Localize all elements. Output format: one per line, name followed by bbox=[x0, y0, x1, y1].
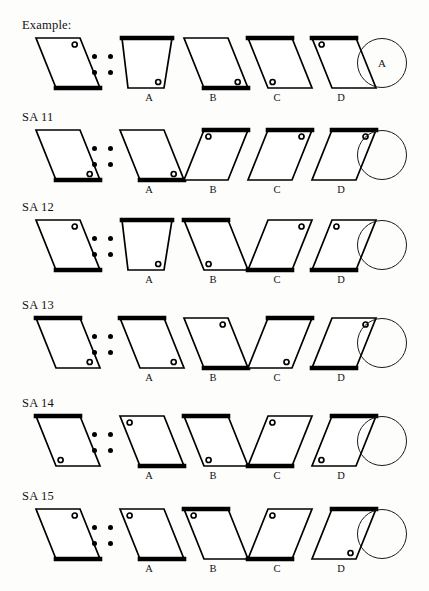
option-shape-sa14-b[interactable] bbox=[176, 412, 250, 474]
separator-dot-3 bbox=[92, 448, 97, 453]
marker-dot-icon bbox=[270, 420, 275, 425]
prompt-shape-sa15 bbox=[28, 505, 102, 567]
option-shape-svg-b bbox=[176, 412, 250, 474]
option-letter-sa15-d: D bbox=[304, 563, 378, 574]
option-shape-svg-b bbox=[176, 216, 250, 278]
marker-dot-icon bbox=[319, 458, 324, 463]
parallelogram-outline bbox=[248, 318, 312, 368]
option-shape-sa15-c[interactable] bbox=[240, 505, 314, 567]
option-shape-svg-c bbox=[240, 126, 314, 188]
option-letter-sa15-b: B bbox=[176, 563, 250, 574]
separator-dot-1 bbox=[92, 525, 97, 530]
row-label: SA 12 bbox=[22, 200, 54, 215]
option-shape-sa12-b[interactable] bbox=[176, 216, 250, 278]
option-shape-svg-b bbox=[176, 126, 250, 188]
option-shape-sa11-a[interactable] bbox=[112, 126, 186, 188]
option-shape-sa13-b[interactable] bbox=[176, 314, 250, 376]
question-row-sa14: SA 14 A B C D bbox=[0, 396, 429, 482]
option-shape-sa12-c[interactable] bbox=[240, 216, 314, 278]
prompt-shape-svg bbox=[28, 34, 102, 96]
parallelogram-outline bbox=[122, 220, 172, 270]
option-letter-sa12-a: A bbox=[112, 274, 186, 285]
answer-circle-sa13[interactable] bbox=[357, 318, 407, 368]
parallelogram-outline bbox=[122, 38, 172, 88]
option-letter-sa15-a: A bbox=[112, 563, 186, 574]
prompt-shape-svg bbox=[28, 126, 102, 188]
prompt-shape-svg bbox=[28, 216, 102, 278]
option-shape-sa11-b[interactable] bbox=[176, 126, 250, 188]
option-letter-sa12-b: B bbox=[176, 274, 250, 285]
answer-circle-sa12[interactable] bbox=[357, 220, 407, 270]
prompt-shape-sa14 bbox=[28, 412, 102, 474]
marker-dot-icon bbox=[191, 513, 196, 518]
prompt-shape-svg bbox=[28, 412, 102, 474]
option-shape-sa14-a[interactable] bbox=[112, 412, 186, 474]
option-shape-sa14-c[interactable] bbox=[240, 412, 314, 474]
option-shape-svg-a bbox=[112, 34, 186, 96]
option-letter-example-b: B bbox=[176, 92, 250, 103]
question-row-sa15: SA 15 A B C D bbox=[0, 489, 429, 575]
marker-dot-icon bbox=[127, 420, 132, 425]
option-shape-svg-c bbox=[240, 412, 314, 474]
parallelogram-outline bbox=[36, 416, 100, 466]
option-shape-svg-c bbox=[240, 505, 314, 567]
marker-dot-icon bbox=[156, 262, 161, 267]
option-letter-sa12-d: D bbox=[304, 274, 378, 285]
marker-dot-icon bbox=[72, 42, 77, 47]
option-shape-sa11-c[interactable] bbox=[240, 126, 314, 188]
answer-circle-sa11[interactable] bbox=[357, 130, 407, 180]
option-letter-sa13-b: B bbox=[176, 372, 250, 383]
prompt-shape-sa12 bbox=[28, 216, 102, 278]
parallelogram-outline bbox=[248, 38, 312, 88]
option-shape-svg-c bbox=[240, 216, 314, 278]
option-letter-sa13-d: D bbox=[304, 372, 378, 383]
option-shape-svg-a bbox=[112, 505, 186, 567]
marker-dot-icon bbox=[284, 360, 289, 365]
option-shape-example-c[interactable] bbox=[240, 34, 314, 96]
option-letter-sa14-c: C bbox=[240, 470, 314, 481]
row-label: Example: bbox=[22, 18, 72, 33]
parallelogram-outline bbox=[184, 416, 248, 466]
option-letter-example-a: A bbox=[112, 92, 186, 103]
marker-dot-icon bbox=[206, 134, 211, 139]
option-letter-sa11-a: A bbox=[112, 184, 186, 195]
answer-circle-sa15[interactable] bbox=[357, 509, 407, 559]
parallelogram-outline bbox=[248, 509, 312, 559]
question-row-sa13: SA 13 A B C D bbox=[0, 298, 429, 384]
option-shape-example-b[interactable] bbox=[176, 34, 250, 96]
prompt-shape-svg bbox=[28, 314, 102, 376]
option-shape-svg-c bbox=[240, 314, 314, 376]
question-row-example: Example: A B C DA bbox=[0, 18, 429, 104]
option-shape-sa13-a[interactable] bbox=[112, 314, 186, 376]
marker-dot-icon bbox=[348, 551, 353, 556]
option-shape-sa12-a[interactable] bbox=[112, 216, 186, 278]
option-letter-sa11-c: C bbox=[240, 184, 314, 195]
answer-circle-sa14[interactable] bbox=[357, 416, 407, 466]
option-letter-sa13-a: A bbox=[112, 372, 186, 383]
separator-dot-3 bbox=[92, 70, 97, 75]
answer-circle-example[interactable]: A bbox=[357, 38, 407, 88]
prompt-shape-sa11 bbox=[28, 126, 102, 188]
separator-dot-1 bbox=[92, 54, 97, 59]
option-shape-sa15-a[interactable] bbox=[112, 505, 186, 567]
marker-dot-icon bbox=[334, 224, 339, 229]
marker-dot-icon bbox=[206, 458, 211, 463]
separator-dot-3 bbox=[92, 350, 97, 355]
option-letter-sa14-d: D bbox=[304, 470, 378, 481]
row-label: SA 15 bbox=[22, 489, 54, 504]
option-letter-sa15-c: C bbox=[240, 563, 314, 574]
prompt-shape-sa13 bbox=[28, 314, 102, 376]
option-shape-example-a[interactable] bbox=[112, 34, 186, 96]
row-label: SA 11 bbox=[22, 110, 53, 125]
separator-dot-3 bbox=[92, 541, 97, 546]
option-shape-sa15-b[interactable] bbox=[176, 505, 250, 567]
option-letter-example-c: C bbox=[240, 92, 314, 103]
option-shape-svg-b bbox=[176, 505, 250, 567]
option-shape-svg-a bbox=[112, 314, 186, 376]
separator-dot-1 bbox=[92, 334, 97, 339]
option-shape-sa13-c[interactable] bbox=[240, 314, 314, 376]
option-letter-sa14-a: A bbox=[112, 470, 186, 481]
marker-dot-icon bbox=[58, 458, 63, 463]
test-page: Example: A B C DASA 11 A B C bbox=[0, 0, 429, 591]
option-shape-svg-a bbox=[112, 216, 186, 278]
